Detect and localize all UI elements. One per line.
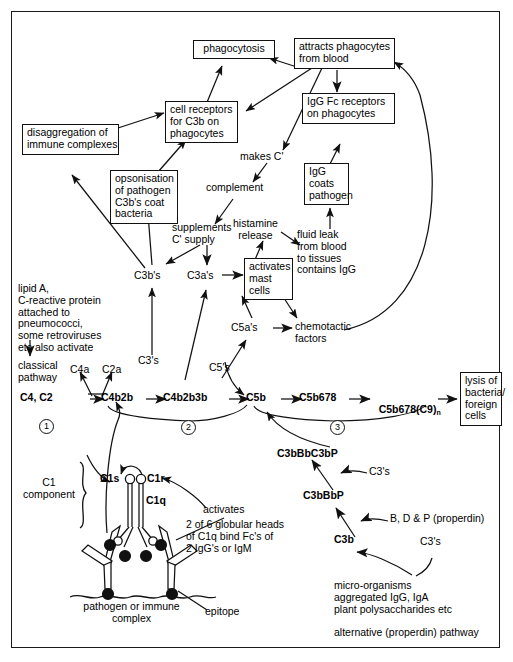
label-classical-pathway: classical pathway	[18, 360, 58, 384]
label-activates: activates	[203, 504, 244, 516]
box-activates-mast-cells[interactable]: activates mast cells	[244, 258, 293, 300]
box-attracts-phagocytes[interactable]: attracts phagocytes from blood	[294, 38, 395, 69]
stage-number-3: 3	[330, 420, 345, 435]
pathway-step-c5b678c9-text: C5b678(C9)	[379, 403, 437, 415]
pathway-step-subscript: n	[436, 409, 440, 416]
label-c1-component: C1 component	[20, 477, 78, 501]
box-opsonisation[interactable]: opsonisation of pathogen C3b's coat bact…	[110, 170, 178, 224]
label-c2a: C2a	[102, 364, 121, 376]
label-alternative-pathway: alternative (properdin) pathway	[334, 627, 479, 639]
label-histamine-release: histamine release	[233, 218, 278, 242]
label-complement: complement	[206, 182, 263, 194]
label-c3b: C3b	[334, 534, 354, 546]
pathway-step-c5b: C5b	[246, 392, 266, 404]
label-c3s-right: C3's	[420, 536, 441, 548]
label-c3bbbp: C3bBbP	[303, 490, 344, 502]
label-c5as: C5a's	[231, 322, 258, 334]
label-makes-c: makes C'	[240, 151, 283, 163]
pathway-step-c5b678c9n: C5b678(C9)n	[367, 392, 441, 428]
label-supplements-c-supply: supplements C' supply	[172, 222, 232, 246]
label-c3s-left: C3's	[138, 355, 159, 367]
box-igg-coats-pathogen[interactable]: IgG coats pathogen	[304, 163, 349, 205]
label-epitope: epitope	[205, 606, 239, 618]
pathway-step-c4b2b3b: C4b2b3b	[163, 392, 207, 404]
pathway-step-c4b2b: C4b2b	[101, 392, 133, 404]
label-microorganisms-block: micro-organisms aggregated IgG, IgA plan…	[334, 580, 452, 615]
box-lysis[interactable]: lysis of bacteria/ foreign cells	[460, 372, 502, 426]
label-c3as: C3a's	[187, 270, 214, 282]
label-c5s: C5's	[209, 362, 230, 374]
box-phagocytosis[interactable]: phagocytosis	[193, 40, 275, 59]
pathway-step-c5b678: C5b678	[299, 392, 336, 404]
label-globular-heads: 2 of 6 globular heads of C1q bind Fc's o…	[186, 519, 284, 554]
stage-number-1: 1	[39, 419, 54, 434]
label-c1r: C1r	[147, 473, 165, 485]
box-igg-fc-receptors[interactable]: IgG Fc receptors on phagocytes	[302, 93, 395, 124]
label-bdp-properdin: B, D & P (properdin)	[390, 513, 484, 525]
label-c1q: C1q	[146, 495, 166, 507]
label-lipid-a-block: lipid A, C-reactive protein attached to …	[18, 283, 101, 354]
diagram-canvas: phagocytosis attracts phagocytes from bl…	[0, 0, 513, 662]
label-fluid-leak: fluid leak from blood to tissues contain…	[297, 229, 356, 276]
box-disaggregation[interactable]: disaggregation of immune complexes	[22, 124, 119, 155]
pathway-step-c4c2: C4, C2	[20, 392, 53, 404]
label-c3bs: C3b's	[134, 270, 161, 282]
label-c3bbbc3bp: C3bBbC3bP	[277, 448, 338, 460]
box-cell-receptors-c3b[interactable]: cell receptors for C3b on phagocytes	[165, 101, 238, 143]
label-c1s: C1s	[100, 473, 119, 485]
label-chemotactic-factors: chemotactic factors	[295, 321, 351, 345]
label-c4a: C4a	[70, 364, 89, 376]
label-c3s-mid: C3's	[369, 466, 390, 478]
label-pathogen-or-immune-complex: pathogen or immune complex	[64, 601, 199, 625]
stage-number-2: 2	[181, 420, 196, 435]
